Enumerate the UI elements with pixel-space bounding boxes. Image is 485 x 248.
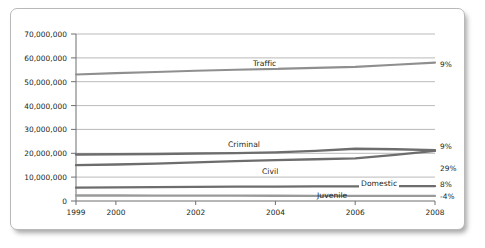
figure-root: 70,000,000 60,000,000 50,000,000 40,000,… xyxy=(0,0,485,248)
y-tick-label-10m: 10,000,000 xyxy=(11,173,67,182)
series-label-juvenile: Juvenile xyxy=(315,191,349,200)
y-tick-label-0: 0 xyxy=(11,197,67,206)
x-tick-label-2000: 2000 xyxy=(96,208,136,217)
percent-change-criminal: 9% xyxy=(440,142,452,151)
percent-change-domestic: 8% xyxy=(440,180,452,189)
x-axis-ticks xyxy=(76,201,435,205)
series-label-civil: Civil xyxy=(260,167,280,176)
x-tick-label-2004: 2004 xyxy=(255,208,295,217)
y-tick-label-70m: 70,000,000 xyxy=(11,30,67,39)
series-label-domestic: Domestic xyxy=(359,179,399,188)
series-label-criminal: Criminal xyxy=(226,140,262,149)
percent-change-juvenile: -4% xyxy=(440,192,455,201)
chart-card: 70,000,000 60,000,000 50,000,000 40,000,… xyxy=(10,8,465,230)
x-tick-label-2008: 2008 xyxy=(415,208,455,217)
x-tick-label-2006: 2006 xyxy=(335,208,375,217)
x-tick-label-1999: 1999 xyxy=(56,208,96,217)
y-tick-label-20m: 20,000,000 xyxy=(11,149,67,158)
line-chart-plot xyxy=(11,9,465,230)
percent-change-traffic: 9% xyxy=(440,60,452,69)
series-label-traffic: Traffic xyxy=(251,59,278,68)
y-tick-label-30m: 30,000,000 xyxy=(11,125,67,134)
y-tick-label-40m: 40,000,000 xyxy=(11,102,67,111)
percent-change-civil: 29% xyxy=(440,164,457,173)
x-tick-label-2002: 2002 xyxy=(176,208,216,217)
y-tick-label-60m: 60,000,000 xyxy=(11,54,67,63)
y-axis-ticks xyxy=(71,34,76,201)
y-tick-label-50m: 50,000,000 xyxy=(11,78,67,87)
